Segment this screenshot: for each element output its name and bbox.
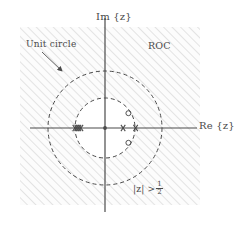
zplane-plot [0, 0, 237, 226]
unit-circle-label: Unit circle [26, 40, 76, 49]
origin-marker [103, 126, 107, 130]
roc-label: ROC [148, 41, 171, 51]
roc-condition-denominator: 2 [156, 189, 163, 196]
roc-condition-prefix: |z| > [133, 184, 155, 194]
imaginary-axis-label: Im {z} [96, 12, 132, 22]
roc-shaded-region [20, 27, 200, 205]
real-axis-label: Re {z} [199, 121, 235, 131]
roc-condition-label: |z| >12 [133, 181, 163, 197]
zplane-figure: Im {z} Re {z} Unit circle ROC |z| >12 [0, 0, 237, 226]
roc-condition-fraction: 12 [156, 181, 163, 197]
